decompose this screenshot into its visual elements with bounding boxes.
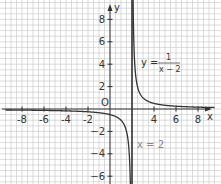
curve-right-branch: [133, 0, 214, 108]
y-tick-label: −2: [90, 126, 105, 137]
x-tick-label: 4: [151, 114, 157, 125]
origin-label: O: [101, 97, 109, 108]
x-tick-label: 8: [195, 114, 201, 125]
y-tick-label: 8: [99, 14, 105, 25]
x-tick-label: -4: [61, 114, 71, 125]
function-label-numerator: 1: [166, 53, 171, 62]
x-tick-label: -8: [17, 114, 27, 125]
function-label-denominator: x − 2: [159, 65, 181, 74]
axes: [2, 4, 212, 184]
y-axis-label: y: [114, 2, 120, 13]
y-tick-label: 6: [99, 36, 105, 47]
y-axis-arrow: [108, 4, 113, 11]
y-tick-label: −6: [90, 171, 105, 182]
asymptote-label: x = 2: [137, 139, 164, 150]
hyperbola-chart: -8-6-4-24688642−2−4−6 x y O y = 1 x − 2 …: [0, 0, 221, 184]
function-label: y = 1 x − 2: [141, 53, 181, 74]
y-tick-label: 4: [99, 59, 105, 70]
x-tick-label: 6: [173, 114, 179, 125]
function-label-lhs: y =: [141, 57, 158, 68]
y-tick-label: 2: [99, 81, 105, 92]
x-tick-label: -2: [83, 114, 93, 125]
y-tick-label: −4: [90, 148, 105, 159]
x-tick-label: -6: [39, 114, 49, 125]
x-axis-label: x: [207, 111, 213, 122]
